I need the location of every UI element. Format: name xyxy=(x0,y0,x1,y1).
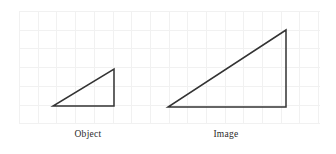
object-caption: Object xyxy=(74,129,101,139)
image-triangle xyxy=(168,30,286,107)
figure-canvas: Object Image xyxy=(0,0,336,154)
image-caption: Image xyxy=(213,129,238,139)
geometry-figure xyxy=(0,0,336,154)
object-triangle xyxy=(53,69,114,106)
